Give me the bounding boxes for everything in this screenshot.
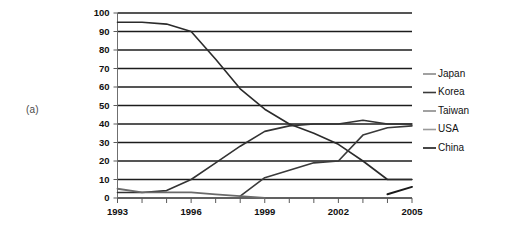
legend-label-japan: Japan <box>438 68 465 79</box>
x-tick-label: 1996 <box>181 206 202 217</box>
y-tick-label: 0 <box>104 192 109 203</box>
y-tick-label: 30 <box>99 137 110 148</box>
x-tick-label: 2002 <box>328 206 349 217</box>
legend-label-taiwan: Taiwan <box>438 105 469 116</box>
y-tick-label: 90 <box>99 26 110 37</box>
series-lines <box>118 22 413 198</box>
y-tick-label: 60 <box>99 81 110 92</box>
y-tick-label: 100 <box>94 7 110 18</box>
x-tick-label: 1993 <box>107 206 128 217</box>
y-tick-label: 40 <box>99 118 110 129</box>
legend-label-usa: USA <box>438 123 459 134</box>
gridlines <box>118 13 413 198</box>
y-tick-label: 20 <box>99 155 110 166</box>
series-line-china <box>387 187 412 194</box>
y-axis: 0102030405060708090100 <box>94 7 118 203</box>
x-tick-label: 2005 <box>401 206 423 217</box>
chart-legend: JapanKoreaTaiwanUSAChina <box>423 68 469 153</box>
y-tick-label: 50 <box>99 100 110 111</box>
line-chart: 0102030405060708090100 19931996199920022… <box>0 0 522 235</box>
y-tick-label: 80 <box>99 44 110 55</box>
x-axis: 19931996199920022005 <box>107 198 423 217</box>
series-line-korea <box>118 120 413 192</box>
legend-label-korea: Korea <box>438 86 465 97</box>
x-tick-label: 1999 <box>254 206 275 217</box>
y-tick-label: 10 <box>99 174 110 185</box>
legend-label-china: China <box>438 142 465 153</box>
series-line-japan <box>118 22 413 179</box>
figure-panel: (a) 0102030405060708090100 1993199619992… <box>0 0 522 235</box>
y-tick-label: 70 <box>99 63 110 74</box>
